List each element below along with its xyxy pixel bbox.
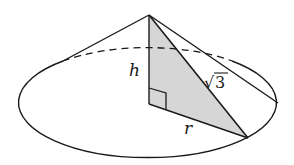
sqrt-symbol: √ bbox=[204, 73, 215, 92]
cone-left-edge bbox=[63, 15, 149, 61]
slant-height-label: √ 3 bbox=[204, 73, 228, 92]
cone-diagram: h r √ 3 bbox=[0, 0, 294, 165]
height-label: h bbox=[129, 60, 140, 80]
radius-label: r bbox=[184, 118, 193, 138]
slant-value: 3 bbox=[215, 73, 225, 92]
